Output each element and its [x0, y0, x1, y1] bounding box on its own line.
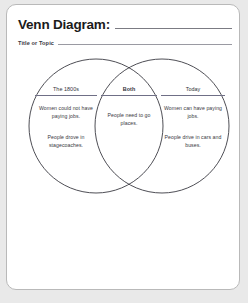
- venn-region-left[interactable]: The 1800s Women could not have paying jo…: [35, 86, 97, 150]
- venn-region-center[interactable]: Both People need to go places.: [101, 86, 157, 128]
- venn-region-right-heading: Today: [161, 86, 225, 93]
- venn-region-right[interactable]: Today Women can have paying jobs. People…: [161, 86, 225, 150]
- worksheet-page: Venn Diagram: Title or Topic The 1800s W…: [6, 4, 240, 290]
- venn-region-right-heading-rule: [161, 95, 225, 96]
- page-title: Venn Diagram:: [18, 18, 110, 32]
- venn-region-center-heading: Both: [101, 86, 157, 93]
- venn-region-left-line-1: Women could not have paying jobs.: [35, 104, 97, 121]
- venn-region-left-heading: The 1800s: [35, 86, 97, 93]
- title-fill-in-line[interactable]: [115, 28, 232, 29]
- venn-region-left-line-2: People drove in stagecoaches.: [35, 133, 97, 150]
- venn-region-center-line-1: People need to go places.: [101, 111, 157, 128]
- venn-region-left-heading-rule: [35, 95, 97, 96]
- subtitle-fill-in-line[interactable]: [58, 44, 232, 45]
- worksheet-header: Venn Diagram: Title or Topic: [7, 5, 240, 51]
- venn-region-right-line-1: Women can have paying jobs.: [161, 104, 225, 121]
- subtitle-row: Title or Topic: [18, 36, 232, 47]
- venn-diagram: The 1800s Women could not have paying jo…: [7, 51, 240, 290]
- title-row: Venn Diagram:: [18, 16, 232, 32]
- venn-region-right-line-2: People drive in cars and buses.: [161, 133, 225, 150]
- subtitle-label: Title or Topic: [18, 40, 54, 47]
- venn-region-center-heading-rule: [101, 95, 157, 96]
